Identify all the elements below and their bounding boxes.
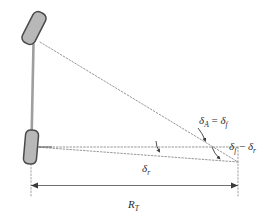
- rear-wheel-body: [23, 129, 39, 164]
- rear-axle-perpendicular-ray: [36, 147, 238, 162]
- rear-angle-arc: [156, 141, 159, 151]
- upper-angle-arc: [198, 128, 205, 140]
- wheelbase-line: [32, 44, 34, 142]
- dimension-arrow-left: [31, 183, 38, 189]
- diagram-canvas: δA = δf δf − δr δr RT: [0, 0, 279, 219]
- rear-wheel: [23, 129, 39, 164]
- dimension-arrow-right: [231, 183, 238, 189]
- steering-geometry-diagram: δA = δf δf − δr δr RT: [0, 0, 279, 219]
- front-axle-perpendicular-ray: [40, 42, 238, 162]
- front-wheel-body: [20, 10, 48, 47]
- angle-difference-label: δf − δr: [229, 140, 256, 155]
- front-wheel: [20, 10, 48, 47]
- ackermann-angle-label: δA = δf: [199, 114, 229, 129]
- turn-radius-label: RT: [127, 198, 140, 213]
- rear-steer-angle-label: δr: [142, 162, 150, 177]
